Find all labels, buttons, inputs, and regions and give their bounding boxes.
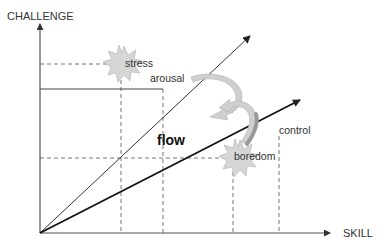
arousal-label: arousal xyxy=(150,73,184,84)
challenge-axis-label: CHALLENGE xyxy=(7,11,74,22)
stress-label: stress xyxy=(125,58,153,69)
curved-arrow-arousal-to-flow-icon xyxy=(191,74,242,120)
lower-channel-line xyxy=(40,100,300,233)
flow-diagram: CHALLENGE SKILL stress arousal control b… xyxy=(0,0,381,249)
control-label: control xyxy=(279,125,311,136)
skill-axis-label: SKILL xyxy=(343,228,373,239)
flow-region-label: flow xyxy=(157,133,185,147)
boredom-label: boredom xyxy=(234,151,275,162)
curved-arrow-control-to-flow-icon xyxy=(219,99,257,144)
